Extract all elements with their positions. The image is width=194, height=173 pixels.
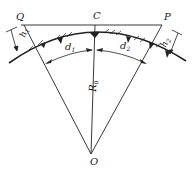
label-d2: d2 [120,40,130,52]
label-O: O [90,156,98,167]
label-d1: d1 [65,41,75,53]
dimension-h1 [6,27,18,51]
label-R0: R0 [87,80,99,93]
label-P: P [163,11,171,22]
surface-arc [9,32,186,63]
line-Q-O [24,25,91,154]
curvature-diagram: Q C P O h1 h2 d1 d2 R0 [0,0,194,173]
arrow-d2-left [96,48,103,52]
arrow-d1-left [45,59,52,64]
label-h1: h1 [17,26,31,39]
arrow-d1-right [86,48,93,52]
dimension-d2-arc [97,50,145,63]
label-Q: Q [16,11,24,22]
label-C: C [93,10,101,21]
